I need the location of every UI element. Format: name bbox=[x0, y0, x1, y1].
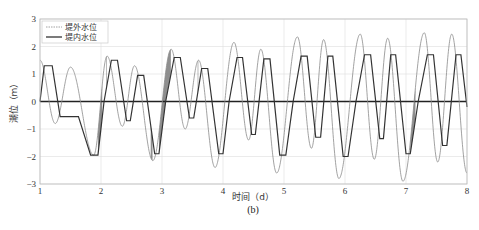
x-tick-label: 4 bbox=[221, 186, 226, 196]
x-tick-label: 8 bbox=[465, 186, 470, 196]
x-tick-label: 2 bbox=[99, 186, 104, 196]
legend-label-outer: 堤外水位 bbox=[65, 22, 97, 32]
y-tick-label: 0 bbox=[32, 97, 37, 107]
y-tick-label: −2 bbox=[26, 152, 36, 162]
x-tick-label: 6 bbox=[343, 186, 348, 196]
y-tick-label: 3 bbox=[32, 14, 37, 24]
legend-label-inner: 堤内水位 bbox=[65, 32, 97, 42]
y-tick-label: −1 bbox=[26, 124, 36, 134]
y-axis-ticks: −3−2−10123 bbox=[26, 14, 36, 189]
y-tick-label: 1 bbox=[32, 69, 37, 79]
x-tick-label: 5 bbox=[282, 186, 287, 196]
plot-area bbox=[40, 33, 467, 182]
y-tick-label: −3 bbox=[26, 179, 36, 189]
y-axis-label: 潮位（m） bbox=[8, 79, 19, 124]
y-tick-label: 2 bbox=[32, 42, 37, 52]
x-tick-label: 1 bbox=[38, 186, 43, 196]
x-axis-label: 时间（d） bbox=[232, 191, 274, 202]
tide-level-chart: 12345678 −3−2−10123 时间（d） 潮位（m） (b) 堤外水位… bbox=[0, 0, 479, 230]
x-tick-label: 7 bbox=[404, 186, 409, 196]
legend: 堤外水位 堤内水位 bbox=[42, 21, 108, 43]
x-tick-label: 3 bbox=[160, 186, 165, 196]
figure-caption: (b) bbox=[247, 204, 259, 216]
outer-water-level-line bbox=[40, 33, 467, 182]
